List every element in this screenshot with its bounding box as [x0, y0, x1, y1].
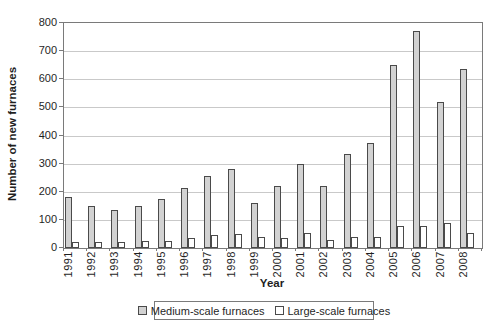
bar-large-2005	[397, 226, 404, 249]
x-label-1996: 1996	[178, 251, 191, 277]
bar-medium-1995	[158, 199, 165, 248]
x-label-2002: 2002	[317, 251, 330, 277]
bar-large-2000	[281, 238, 288, 248]
bar-medium-1994	[135, 206, 142, 248]
x-label-2005: 2005	[387, 251, 400, 277]
bar-medium-2003	[344, 154, 351, 248]
x-label-2003: 2003	[341, 251, 354, 277]
x-label-1994: 1994	[132, 251, 145, 277]
bar-large-1996	[188, 238, 195, 248]
x-label-2001: 2001	[294, 251, 307, 277]
legend-label-medium: Medium-scale furnaces	[151, 305, 265, 317]
bar-large-2003	[351, 237, 358, 248]
bar-large-1999	[258, 237, 265, 248]
bar-large-2002	[327, 240, 334, 248]
bar-medium-2007	[437, 102, 444, 248]
y-tick-label-700: 700	[25, 44, 57, 56]
x-label-2008: 2008	[457, 251, 470, 277]
x-label-2004: 2004	[364, 251, 377, 277]
bar-large-1997	[211, 235, 218, 248]
bar-medium-2005	[390, 65, 397, 248]
bar-medium-1997	[204, 176, 211, 248]
y-tick-label-0: 0	[25, 241, 57, 253]
bar-medium-2004	[367, 143, 374, 248]
x-label-2007: 2007	[434, 251, 447, 277]
x-label-1993: 1993	[108, 251, 121, 277]
y-tick-label-500: 500	[25, 100, 57, 112]
bar-medium-2006	[413, 31, 420, 248]
bar-large-2006	[420, 226, 427, 249]
bar-large-1998	[235, 234, 242, 248]
legend-label-large: Large-scale furnaces	[288, 305, 391, 317]
bar-large-1993	[118, 242, 125, 248]
x-label-2000: 2000	[271, 251, 284, 277]
x-label-2006: 2006	[410, 251, 423, 277]
bar-medium-1998	[228, 169, 235, 248]
x-axis-title: Year	[242, 277, 302, 291]
bar-large-2008	[467, 233, 474, 248]
bar-large-1991	[72, 242, 79, 248]
legend: Medium-scale furnaces Large-scale furnac…	[154, 301, 374, 320]
legend-swatch-large-icon	[275, 306, 284, 315]
x-label-1999: 1999	[248, 251, 261, 277]
legend-swatch-medium-icon	[138, 306, 147, 315]
bar-medium-1992	[88, 206, 95, 248]
x-tick-mark-18	[481, 248, 482, 251]
bar-large-1992	[95, 242, 102, 248]
bar-medium-2001	[297, 164, 304, 248]
y-tick-label-800: 800	[25, 16, 57, 28]
y-tick-label-200: 200	[25, 185, 57, 197]
bar-medium-2008	[460, 69, 467, 248]
x-label-1995: 1995	[155, 251, 168, 277]
bar-medium-1993	[111, 210, 118, 248]
bar-medium-2000	[274, 186, 281, 248]
bar-large-1995	[165, 241, 172, 248]
x-label-1992: 1992	[85, 251, 98, 277]
legend-item-large: Large-scale furnaces	[275, 305, 391, 317]
y-axis-title: Number of new furnaces	[6, 54, 22, 214]
y-tick-label-100: 100	[25, 213, 57, 225]
y-tick-label-300: 300	[25, 157, 57, 169]
chart-canvas: Number of new furnaces 01002003004005006…	[0, 0, 496, 331]
x-label-1991: 1991	[62, 251, 75, 277]
bar-medium-1999	[251, 203, 258, 248]
y-tick-label-600: 600	[25, 72, 57, 84]
bar-medium-2002	[320, 186, 327, 248]
x-label-1997: 1997	[201, 251, 214, 277]
bar-large-2007	[444, 223, 451, 248]
plot-area	[63, 22, 483, 249]
bar-large-1994	[142, 241, 149, 248]
bar-medium-1991	[65, 197, 72, 248]
bar-large-2001	[304, 233, 311, 248]
bar-medium-1996	[181, 188, 188, 248]
y-tick-label-400: 400	[25, 129, 57, 141]
bar-large-2004	[374, 237, 381, 248]
x-label-1998: 1998	[225, 251, 238, 277]
legend-item-medium: Medium-scale furnaces	[138, 305, 265, 317]
